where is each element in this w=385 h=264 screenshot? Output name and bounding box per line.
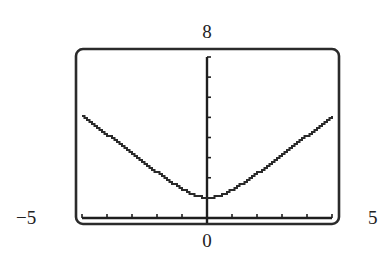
origin-label: 0 bbox=[202, 231, 212, 250]
graph-window bbox=[0, 0, 385, 264]
x-max-label: 5 bbox=[368, 208, 378, 227]
y-max-label: 8 bbox=[202, 22, 212, 41]
x-min-label: −5 bbox=[16, 208, 36, 227]
